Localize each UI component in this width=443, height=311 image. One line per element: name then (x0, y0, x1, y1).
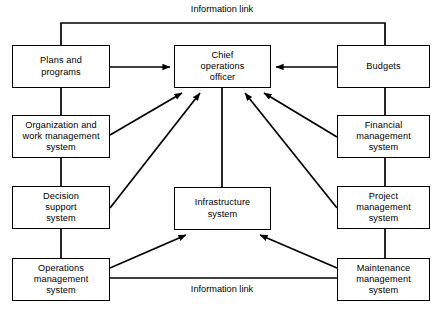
node-label: Budgets (364, 61, 402, 72)
node-plans-and-programs[interactable]: Plans andprograms (12, 45, 110, 88)
information-link-label-top: Information link (188, 4, 256, 14)
node-infrastructure-system[interactable]: Infrastructuresystem (174, 187, 271, 230)
node-label: Infrastructuresystem (193, 197, 253, 219)
information-link-label-bottom: Information link (188, 284, 256, 294)
node-label: Plans andprograms (38, 55, 84, 77)
node-label: Projectmanagementsystem (354, 191, 413, 225)
node-decision-support-system[interactable]: Decisionsupportsystem (12, 186, 110, 229)
node-label: Chiefoperationsofficer (199, 50, 247, 84)
node-label: Operationsmanagementsystem (32, 263, 91, 297)
node-label: Organization andwork managementsystem (20, 120, 101, 154)
node-project-management-system[interactable]: Projectmanagementsystem (337, 186, 430, 229)
edge-maintenance-to-infrastructure (260, 235, 337, 268)
node-label: Decisionsupportsystem (41, 191, 81, 225)
diagram-canvas: Plans andprograms Chiefoperationsofficer… (0, 0, 443, 311)
edge-top-information-link (61, 23, 385, 45)
node-financial-management-system[interactable]: Financialmanagementsystem (337, 115, 430, 158)
node-label: Maintenancemanagementsystem (354, 263, 413, 297)
node-organization-and-work-management-system[interactable]: Organization andwork managementsystem (12, 115, 110, 158)
node-budgets[interactable]: Budgets (337, 45, 430, 88)
node-chief-operations-officer[interactable]: Chiefoperationsofficer (174, 45, 271, 88)
node-maintenance-management-system[interactable]: Maintenancemanagementsystem (337, 258, 430, 301)
node-label: Financialmanagementsystem (354, 120, 413, 154)
node-operations-management-system[interactable]: Operationsmanagementsystem (12, 258, 110, 301)
edge-operations-to-infrastructure (110, 235, 186, 268)
